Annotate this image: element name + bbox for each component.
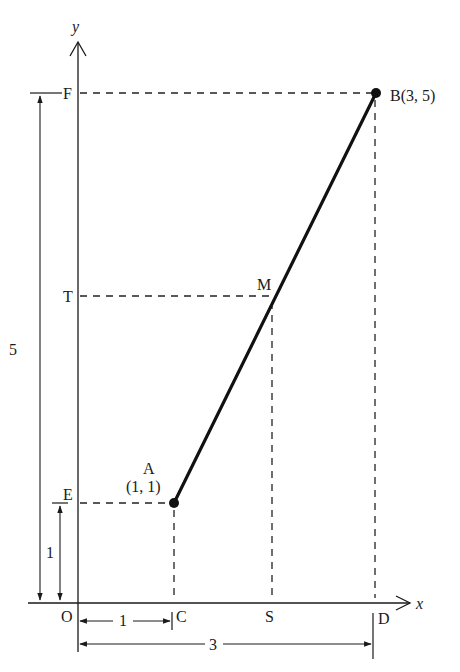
y-axis: y [70, 18, 86, 652]
dimension-horizontal-total-label: 3 [209, 636, 217, 653]
point-A-coords: (1, 1) [126, 478, 161, 496]
line-segment-diagram: y x O B(3, 5) M A (1, 1) F T E C S D 5 1 [0, 0, 460, 672]
dimension-vertical-unit-label: 1 [46, 544, 54, 561]
axis-point-F: F [63, 85, 72, 102]
axis-point-S: S [265, 608, 274, 625]
y-axis-label: y [70, 18, 80, 36]
axis-point-T: T [63, 288, 73, 305]
axis-point-E: E [63, 486, 73, 503]
point-B [371, 88, 381, 98]
dimension-vertical-5: 5 [9, 93, 62, 600]
dimension-vertical-total-label: 5 [9, 341, 17, 358]
axis-point-C: C [176, 608, 187, 625]
origin-label: O [61, 608, 73, 625]
x-axis-label: x [415, 595, 423, 612]
point-M-label: M [257, 276, 271, 293]
point-A [169, 498, 179, 508]
x-axis: x [28, 595, 423, 612]
projection-lines [80, 93, 375, 598]
dimension-horizontal-1: 1 [80, 612, 172, 630]
dimension-horizontal-unit-label: 1 [119, 612, 127, 629]
segment-AB [174, 93, 376, 503]
dimension-vertical-1: 1 [46, 503, 68, 600]
point-B-label: B(3, 5) [390, 87, 435, 105]
point-A-label: A [143, 460, 155, 477]
axis-point-D: D [378, 610, 390, 627]
